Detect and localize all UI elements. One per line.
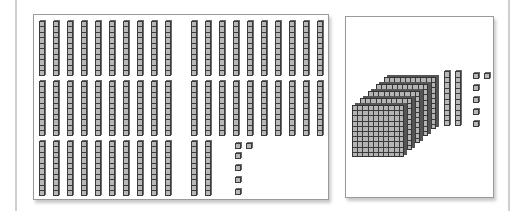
tens-rod bbox=[95, 81, 101, 136]
tens-rod bbox=[303, 81, 309, 136]
tens-rod bbox=[191, 81, 197, 136]
tens-rod bbox=[261, 81, 267, 136]
tens-rod bbox=[261, 21, 267, 76]
tens-rod bbox=[53, 141, 59, 196]
tens-rod bbox=[39, 141, 45, 196]
tens-rod bbox=[275, 21, 281, 76]
tens-rod bbox=[317, 21, 323, 76]
tens-rod bbox=[137, 21, 143, 76]
tens-rod bbox=[165, 141, 171, 196]
unit-cube bbox=[473, 97, 479, 103]
tens-rod bbox=[109, 81, 115, 136]
tens-rod bbox=[219, 21, 225, 76]
tens-rod bbox=[137, 81, 143, 136]
tens-rod bbox=[303, 21, 309, 76]
tens-rod bbox=[81, 81, 87, 136]
tens-rod bbox=[81, 21, 87, 76]
tens-rod bbox=[455, 71, 461, 126]
tens-rod bbox=[165, 21, 171, 76]
tens-rod bbox=[53, 81, 59, 136]
hundreds-flat bbox=[352, 105, 404, 157]
tens-rod bbox=[233, 81, 239, 136]
frame-right-line bbox=[508, 0, 510, 211]
tens-rod bbox=[219, 81, 225, 136]
tens-rod bbox=[191, 21, 197, 76]
tens-rod bbox=[151, 81, 157, 136]
tens-rod bbox=[95, 141, 101, 196]
right-panel-hundreds-tens-ones bbox=[345, 16, 494, 198]
left-panel-tens-and-ones bbox=[33, 14, 329, 200]
unit-cube bbox=[235, 143, 241, 149]
tens-rod bbox=[444, 71, 450, 126]
unit-cube bbox=[235, 189, 241, 195]
tens-rod bbox=[317, 81, 323, 136]
tens-rod bbox=[275, 81, 281, 136]
unit-cube bbox=[484, 73, 490, 79]
tens-rod bbox=[53, 21, 59, 76]
tens-rod bbox=[109, 21, 115, 76]
tens-rod bbox=[123, 81, 129, 136]
tens-rod bbox=[191, 141, 197, 196]
unit-cube bbox=[235, 165, 241, 171]
unit-cube bbox=[473, 85, 479, 91]
unit-cube bbox=[473, 109, 479, 115]
unit-cube bbox=[473, 73, 479, 79]
tens-rod bbox=[247, 21, 253, 76]
tens-rod bbox=[233, 21, 239, 76]
tens-rod bbox=[67, 81, 73, 136]
tens-rod bbox=[165, 81, 171, 136]
tens-rod bbox=[123, 141, 129, 196]
tens-rod bbox=[205, 81, 211, 136]
tens-rod bbox=[67, 21, 73, 76]
tens-rod bbox=[289, 21, 295, 76]
tens-rod bbox=[247, 81, 253, 136]
tens-rod bbox=[81, 141, 87, 196]
unit-cube bbox=[246, 143, 252, 149]
tens-rod bbox=[151, 141, 157, 196]
tens-rod bbox=[205, 141, 211, 196]
tens-rod bbox=[39, 81, 45, 136]
tens-rod bbox=[39, 21, 45, 76]
unit-cube bbox=[235, 153, 241, 159]
unit-cube bbox=[473, 121, 479, 127]
tens-rod bbox=[205, 21, 211, 76]
frame-left-line bbox=[15, 0, 17, 211]
tens-rod bbox=[95, 21, 101, 76]
tens-rod bbox=[151, 21, 157, 76]
tens-rod bbox=[67, 141, 73, 196]
tens-rod bbox=[289, 81, 295, 136]
unit-cube bbox=[235, 177, 241, 183]
tens-rod bbox=[109, 141, 115, 196]
tens-rod bbox=[123, 21, 129, 76]
tens-rod bbox=[137, 141, 143, 196]
